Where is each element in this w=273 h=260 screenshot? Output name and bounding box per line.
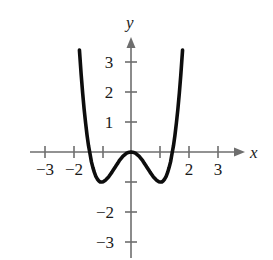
x-tick-label-neg3: −3 (34, 161, 56, 178)
y-axis-arrowhead (127, 37, 136, 48)
y-axis-label: y (126, 14, 134, 31)
y-tick-label-pos1: 1 (102, 114, 116, 131)
x-axis-arrowhead (234, 148, 245, 157)
x-axis-label: x (250, 144, 258, 161)
plot-canvas (0, 0, 273, 260)
y-tick-label-pos3: 3 (102, 54, 116, 71)
y-axis (125, 37, 137, 258)
x-tick-label-pos3: 3 (211, 161, 225, 178)
y-tick-label-pos2: 2 (102, 84, 116, 101)
x-tick-label-neg2: −2 (63, 161, 85, 178)
function-graph-figure: −3 −2 2 3 3 2 1 −2 −3 x y (0, 0, 273, 260)
x-tick-label-pos2: 2 (182, 161, 196, 178)
y-tick-label-neg3: −3 (94, 234, 116, 251)
y-tick-label-neg2: −2 (94, 204, 116, 221)
